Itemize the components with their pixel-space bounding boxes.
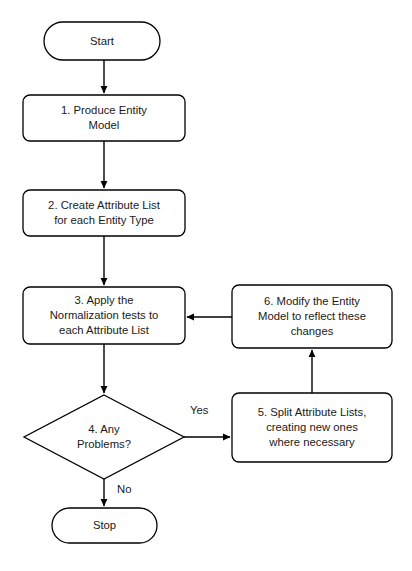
edge-label-no: No [117, 483, 131, 496]
node-step1-shape[interactable] [23, 95, 185, 141]
node-step2-shape[interactable] [23, 190, 185, 236]
node-start-shape[interactable] [44, 22, 160, 60]
flowchart-graphics [0, 0, 412, 571]
node-step5-shape[interactable] [232, 393, 392, 462]
node-step4-shape[interactable] [24, 395, 184, 479]
edge-label-yes: Yes [190, 404, 208, 417]
flowchart-canvas: Start 1. Produce Entity Model 2. Create … [0, 0, 412, 571]
node-step6-shape[interactable] [232, 285, 392, 348]
node-stop-shape[interactable] [52, 508, 157, 543]
node-step3-shape[interactable] [23, 287, 185, 344]
